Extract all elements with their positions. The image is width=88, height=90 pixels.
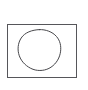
line-drawing	[0, 0, 88, 90]
drawing-canvas	[0, 0, 88, 90]
canvas-background	[0, 0, 88, 90]
